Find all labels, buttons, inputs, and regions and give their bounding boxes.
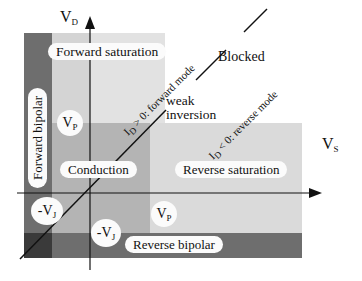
diagonal-line-upper: [244, 9, 267, 32]
vd-axis-subscript: D: [72, 17, 79, 27]
conduction-label: Conduction: [60, 161, 137, 178]
vp-upper-name: V: [62, 115, 72, 130]
reverse-bipolar-label: Reverse bipolar: [125, 236, 223, 253]
vp-lower-subscript: P: [167, 213, 172, 223]
vp-upper-marker: VP: [57, 110, 83, 136]
vj-lower-marker: -VJ: [91, 219, 121, 247]
vd-axis-arrow-icon: [85, 16, 95, 29]
vj-left-subscript: J: [53, 210, 57, 220]
vs-axis-subscript: S: [334, 144, 339, 154]
reverse-saturation-label: Reverse saturation: [175, 161, 287, 178]
vp-lower-marker: VP: [151, 201, 177, 227]
vj-lower-subscript: J: [112, 232, 116, 242]
vd-axis-label: VD: [60, 8, 78, 27]
vj-lower-name: -V: [97, 225, 112, 240]
vs-axis-name: V: [322, 135, 334, 152]
blocked-label: Blocked: [218, 50, 265, 64]
vs-axis-arrow-icon: [309, 188, 322, 198]
forward-bipolar-label: Forward bipolar: [28, 88, 47, 188]
vp-lower-name: V: [156, 206, 166, 221]
forward-saturation-label: Forward saturation: [48, 43, 166, 60]
weak-inversion-label: weak inversion: [166, 94, 216, 122]
vj-left-name: -V: [38, 203, 53, 218]
vd-axis-name: V: [60, 8, 72, 25]
vj-left-marker: -VJ: [31, 197, 63, 225]
vp-upper-subscript: P: [73, 122, 78, 132]
weak-inversion-line2: inversion: [166, 108, 216, 122]
vs-axis-label: VS: [322, 135, 339, 154]
